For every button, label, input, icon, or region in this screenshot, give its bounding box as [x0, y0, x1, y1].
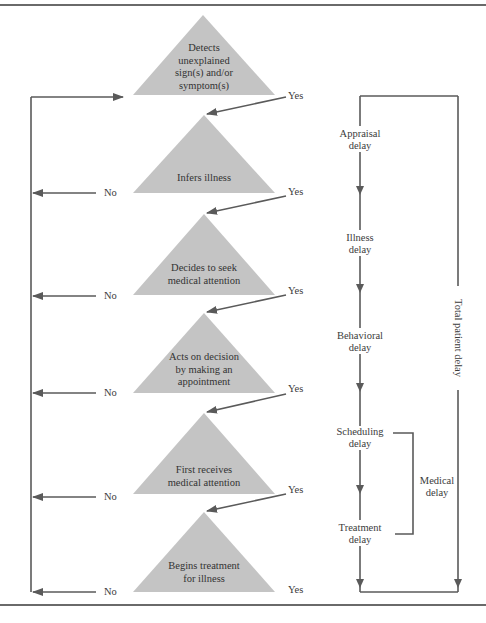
delay-line-text: delay: [325, 534, 395, 546]
step-5-line: First receives: [144, 464, 264, 477]
delay-line-text: Behavioral: [325, 330, 395, 342]
step-4-line: by making an: [144, 364, 264, 377]
treatment-delay-label: Treatment delay: [325, 522, 395, 546]
step-4-line: appointment: [144, 376, 264, 389]
step-3-label: Decides to seek medical attention: [144, 262, 264, 287]
step-3-line: Decides to seek: [144, 262, 264, 275]
down-arrow-1: [356, 186, 364, 195]
down-arrow-4: [356, 485, 364, 494]
step-4-line: Acts on decision: [144, 351, 264, 364]
delay-line-text: Scheduling: [325, 426, 395, 438]
illness-delay-label: Illness delay: [330, 232, 390, 256]
down-arrow-5: [356, 579, 364, 588]
medical-delay-text: delay: [414, 487, 460, 499]
delay-line-text: Illness: [330, 232, 390, 244]
total-patient-delay-label: Total patient delay: [452, 290, 464, 386]
step-1-line: Detects: [144, 42, 264, 55]
yes-arrow-4: [207, 394, 286, 412]
yes-label-2: Yes: [288, 186, 303, 198]
step-6-label: Begins treatment for illness: [144, 560, 264, 585]
yes-label-1: Yes: [288, 90, 303, 102]
delay-line-text: Treatment: [325, 522, 395, 534]
yes-arrow-1: [207, 97, 286, 114]
yes-arrow-2: [207, 196, 286, 213]
delay-line-text: delay: [325, 438, 395, 450]
delay-line-text: Appraisal: [330, 128, 390, 140]
yes-arrow-3: [207, 295, 286, 312]
yes-label-5: Yes: [288, 484, 303, 496]
step-4-label: Acts on decision by making an appointmen…: [144, 351, 264, 389]
no-label-3: No: [104, 290, 117, 302]
no-label-2: No: [104, 187, 117, 199]
step-1-line: sign(s) and/or: [144, 67, 264, 80]
step-3-line: medical attention: [144, 275, 264, 288]
medical-delay-label: Medical delay: [414, 475, 460, 499]
delay-line-text: delay: [330, 244, 390, 256]
step-1-label: Detects unexplained sign(s) and/or sympt…: [144, 42, 264, 92]
behavioral-delay-label: Behavioral delay: [325, 330, 395, 354]
step-6-line: Begins treatment: [144, 560, 264, 573]
delay-line-text: delay: [325, 342, 395, 354]
medical-delay-bracket: [393, 433, 413, 534]
delay-line-text: delay: [330, 140, 390, 152]
step-5-label: First receives medical attention: [144, 464, 264, 489]
no-label-6: No: [104, 586, 117, 598]
down-arrow-2: [356, 284, 364, 293]
delay-flowchart: [0, 0, 486, 623]
yes-label-3: Yes: [288, 285, 303, 297]
step-2-line: Infers illness: [144, 172, 264, 185]
step-1-line: symptom(s): [144, 80, 264, 93]
yes-label-6: Yes: [288, 584, 303, 596]
appraisal-delay-label: Appraisal delay: [330, 128, 390, 152]
step-1-line: unexplained: [144, 55, 264, 68]
medical-delay-text: Medical: [414, 475, 460, 487]
down-arrow-3: [356, 383, 364, 392]
scheduling-delay-label: Scheduling delay: [325, 426, 395, 450]
yes-label-4: Yes: [288, 383, 303, 395]
down-arrow-total: [454, 579, 462, 588]
no-label-5: No: [104, 491, 117, 503]
yes-arrow-5: [207, 494, 286, 511]
no-label-4: No: [104, 387, 117, 399]
step-2-label: Infers illness: [144, 172, 264, 185]
step-5-line: medical attention: [144, 477, 264, 490]
step-6-line: for illness: [144, 573, 264, 586]
